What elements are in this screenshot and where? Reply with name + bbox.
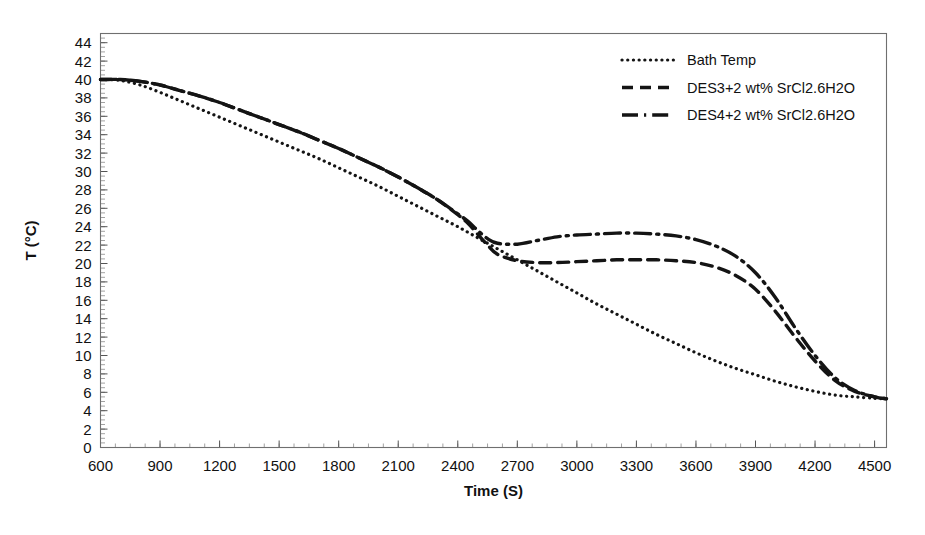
y-tick-label: 6 xyxy=(83,384,91,401)
y-tick-label: 42 xyxy=(75,53,92,70)
x-tick-label: 4500 xyxy=(858,457,891,474)
y-tick-label: 2 xyxy=(83,421,91,438)
y-tick-label: 34 xyxy=(75,126,92,143)
x-tick-label: 600 xyxy=(88,457,113,474)
x-tick-label: 2700 xyxy=(501,457,534,474)
x-tick-label: 4200 xyxy=(798,457,831,474)
y-tick-label: 26 xyxy=(75,200,92,217)
x-tick-label: 900 xyxy=(148,457,173,474)
x-tick-label: 3600 xyxy=(679,457,712,474)
y-tick-label: 28 xyxy=(75,181,92,198)
y-tick-label: 40 xyxy=(75,71,92,88)
x-tick-label: 1500 xyxy=(262,457,295,474)
y-tick-label: 20 xyxy=(75,255,92,272)
y-tick-label: 16 xyxy=(75,292,92,309)
y-tick-label: 4 xyxy=(83,402,91,419)
y-tick-label: 36 xyxy=(75,108,92,125)
x-tick-label: 3000 xyxy=(560,457,593,474)
temperature-vs-time-chart: 0246810121416182022242628303234363840424… xyxy=(0,0,925,535)
y-tick-label: 0 xyxy=(83,439,91,456)
y-tick-label: 44 xyxy=(75,34,92,51)
y-tick-label: 30 xyxy=(75,163,92,180)
y-tick-label: 10 xyxy=(75,347,92,364)
y-tick-label: 24 xyxy=(75,218,92,235)
x-tick-label: 3900 xyxy=(739,457,772,474)
x-tick-label: 1800 xyxy=(322,457,355,474)
x-axis-title: Time (S) xyxy=(464,482,523,499)
x-tick-label: 2100 xyxy=(382,457,415,474)
y-tick-label: 32 xyxy=(75,145,92,162)
y-tick-label: 8 xyxy=(83,365,91,382)
legend-label-2: DES3+2 wt% SrCl2.6H2O xyxy=(687,80,855,96)
y-tick-label: 22 xyxy=(75,237,92,254)
y-tick-label: 18 xyxy=(75,273,92,290)
y-tick-label: 14 xyxy=(75,310,92,327)
y-tick-label: 38 xyxy=(75,89,92,106)
legend-label-1: Bath Temp xyxy=(687,52,756,68)
legend-label-3: DES4+2 wt% SrCl2.6H2O xyxy=(687,107,855,123)
x-tick-label: 3300 xyxy=(620,457,653,474)
x-tick-label: 2400 xyxy=(441,457,474,474)
y-tick-label: 12 xyxy=(75,329,92,346)
x-tick-label: 1200 xyxy=(203,457,236,474)
y-axis-title: T (°C) xyxy=(22,220,39,260)
